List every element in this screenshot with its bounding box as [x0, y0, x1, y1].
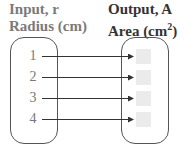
mapping-arrows: [0, 0, 184, 148]
